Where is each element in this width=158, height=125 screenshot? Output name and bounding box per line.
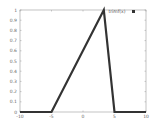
- legend-marker: [132, 10, 135, 13]
- legend-label: trimf(x): [108, 9, 125, 14]
- x-tick-label: 0: [82, 114, 85, 119]
- x-tick-label: -10: [16, 114, 23, 119]
- y-tick-label: 1: [14, 8, 17, 13]
- y-tick-label: 0.4: [10, 69, 17, 74]
- x-tick-label: -5: [49, 114, 54, 119]
- x-tick-label: 5: [113, 114, 116, 119]
- y-tick-label: 0.5: [10, 59, 17, 64]
- y-tick-label: 0.1: [10, 99, 17, 104]
- y-tick-label: 0.6: [10, 48, 17, 53]
- plot-frame: [20, 10, 146, 112]
- y-tick-label: 0.8: [10, 28, 17, 33]
- y-tick-label: 0.7: [10, 38, 17, 43]
- chart: 00.10.20.30.40.50.60.70.80.91 -10-50510 …: [0, 0, 158, 125]
- y-tick-label: 0.9: [10, 18, 17, 23]
- x-tick-label: 10: [143, 114, 149, 119]
- y-tick-label: 0.3: [10, 79, 17, 84]
- y-tick-label: 0.2: [10, 89, 17, 94]
